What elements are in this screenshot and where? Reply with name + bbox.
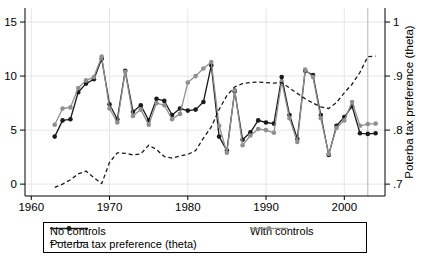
series-with-controls-marker: [334, 126, 339, 131]
series-with-controls-marker: [170, 117, 175, 122]
series-with-controls-marker: [358, 124, 363, 129]
series-no-controls-marker: [201, 100, 206, 105]
series-no-controls-marker: [139, 103, 144, 108]
series-with-controls-marker: [186, 80, 191, 85]
left-tick-label: 5: [11, 124, 17, 136]
series-with-controls-marker: [373, 121, 378, 126]
series-with-controls-marker: [350, 100, 355, 105]
left-tick-label: 10: [4, 70, 17, 82]
series-with-controls-marker: [139, 107, 144, 112]
right-tick-label: .7: [393, 178, 403, 190]
legend-item-theta: Poterba tax preference (theta): [50, 238, 197, 251]
series-with-controls-marker: [178, 112, 183, 117]
x-tick-label: 2000: [332, 201, 358, 213]
series-no-controls-marker: [193, 107, 198, 112]
series-with-controls-marker: [76, 86, 81, 91]
figure-root: 051015.7.8.9119601970198019902000 Poterb…: [0, 0, 422, 263]
series-with-controls-marker: [193, 74, 198, 79]
series-with-controls-marker: [248, 133, 253, 138]
series-with-controls-marker: [201, 66, 206, 71]
series-no-controls-line: [55, 59, 376, 155]
right-tick-label: .9: [393, 70, 403, 82]
x-tick-label: 1990: [253, 201, 279, 213]
series-with-controls-marker: [52, 122, 57, 127]
left-tick-label: 15: [4, 16, 17, 28]
series-no-controls-marker: [366, 132, 371, 137]
series-with-controls-marker: [107, 106, 112, 111]
series-with-controls-marker: [225, 151, 230, 156]
series-with-controls-marker: [319, 116, 324, 121]
x-tick-label: 1980: [175, 201, 201, 213]
legend-sample-with-controls: [250, 224, 288, 233]
series-with-controls-marker: [123, 69, 128, 74]
legend: No controls With controls Poterba tax pr…: [43, 222, 367, 253]
series-with-controls-marker: [311, 75, 316, 80]
right-tick-label: 1: [393, 16, 399, 28]
series-with-controls-marker: [162, 103, 167, 108]
series-no-controls-marker: [154, 97, 159, 102]
series-no-controls-marker: [52, 134, 57, 139]
series-no-controls-marker: [186, 108, 191, 113]
series-with-controls-marker: [60, 106, 65, 111]
legend-item-no-controls: No controls: [50, 224, 106, 237]
series-with-controls-marker: [68, 105, 73, 110]
series-with-controls-marker: [272, 131, 277, 136]
series-with-controls-marker: [326, 152, 331, 157]
legend-row-1: No controls With controls: [48, 224, 362, 237]
series-with-controls-marker: [342, 118, 347, 123]
series-with-controls-marker: [264, 128, 269, 133]
series-with-controls-marker: [146, 122, 151, 127]
series-with-controls-marker: [240, 143, 245, 148]
series-with-controls-marker: [84, 78, 89, 83]
series-no-controls-marker: [68, 117, 73, 122]
right-axis-title: Poterba tax preference (theta): [403, 25, 415, 179]
series-with-controls-marker: [303, 67, 308, 72]
left-tick-label: 0: [11, 178, 17, 190]
series-with-controls-marker: [232, 88, 237, 93]
series-with-controls-marker: [131, 114, 136, 119]
series-with-controls-marker: [295, 140, 300, 145]
series-no-controls-marker: [60, 118, 65, 123]
series-with-controls-marker: [217, 124, 222, 129]
series-with-controls-marker: [256, 127, 261, 132]
series-no-controls-marker: [162, 99, 167, 104]
series-with-controls-marker: [287, 116, 292, 121]
x-tick-label: 1960: [18, 201, 44, 213]
series-with-controls-marker: [209, 60, 214, 65]
series-with-controls-marker: [154, 101, 159, 106]
x-tick-label: 1970: [97, 201, 123, 213]
legend-sample-no-controls: [50, 224, 88, 233]
series-no-controls-marker: [264, 120, 269, 125]
series-no-controls-marker: [358, 131, 363, 136]
series-no-controls-marker: [217, 134, 222, 139]
series-with-controls-marker: [115, 120, 120, 125]
series-no-controls-marker: [256, 118, 261, 123]
series-no-controls-marker: [373, 131, 378, 136]
right-tick-label: .8: [393, 124, 403, 136]
series-no-controls-marker: [279, 75, 284, 80]
legend-row-2: Poterba tax preference (theta): [48, 238, 362, 251]
series-with-controls-marker: [92, 75, 97, 80]
series-with-controls-marker: [99, 54, 104, 59]
legend-item-with-controls: With controls: [250, 224, 314, 237]
series-with-controls-marker: [366, 122, 371, 127]
legend-sample-theta: [50, 238, 88, 247]
